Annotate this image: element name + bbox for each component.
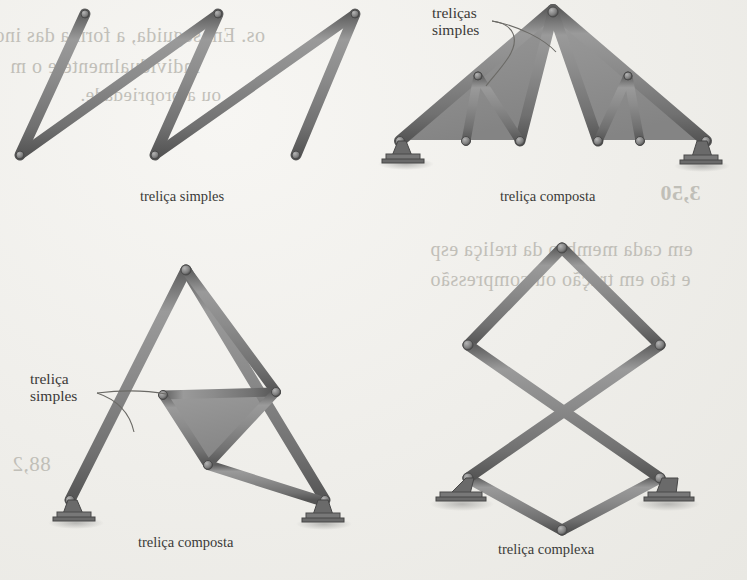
member-inner-top-chord — [163, 392, 276, 395]
label-line-1: treliça — [30, 370, 77, 387]
label-line-1: treliças — [432, 4, 479, 21]
figure-compound-roof-truss — [378, 7, 730, 172]
figure-compound-triangle-truss — [48, 265, 352, 530]
label-line-2: simples — [30, 387, 77, 404]
joint-pins — [66, 265, 330, 505]
member-apex-to-inner-right — [186, 270, 276, 392]
caption-compound-roof-truss: treliça composta — [500, 188, 595, 205]
leader-line-simple-truss-1 — [97, 391, 166, 394]
figure-simple-truss — [16, 10, 359, 159]
figure-page: os. Em seguida, a forma das ino individu… — [0, 0, 747, 580]
member-left-leg — [70, 270, 186, 500]
member-hex-top-right — [562, 248, 660, 345]
caption-compound-triangle-truss: treliça composta — [138, 534, 233, 551]
member-hex-top-left — [468, 248, 562, 345]
caption-complex-truss: treliça complexa — [498, 541, 594, 558]
label-simple-truss-triangle: treliça simples — [30, 370, 77, 405]
truss-figures — [0, 0, 747, 580]
caption-simple-truss: treliça simples — [140, 188, 224, 205]
label-simple-trusses-roof: treliças simples — [432, 4, 479, 39]
label-line-2: simples — [432, 21, 479, 38]
figure-complex-truss — [430, 243, 700, 535]
